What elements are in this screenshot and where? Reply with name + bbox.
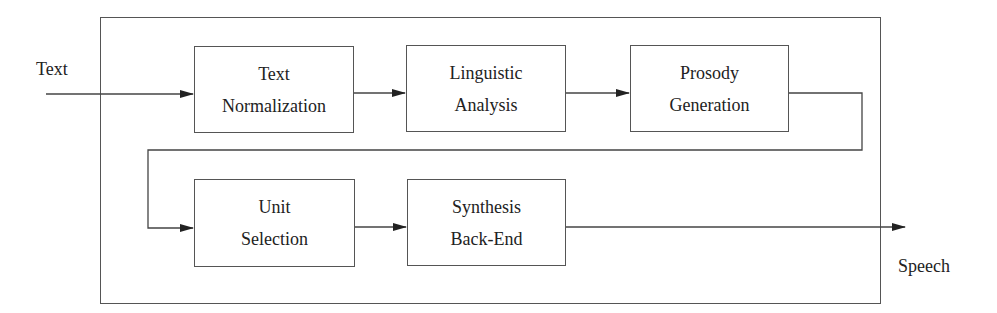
block-unit-selection: Unit Selection [194, 179, 355, 267]
block-line1: Text [258, 58, 290, 90]
output-label: Speech [898, 256, 950, 277]
block-line2: Normalization [222, 90, 326, 122]
block-line2: Back-End [451, 223, 523, 255]
block-line2: Generation [670, 89, 750, 121]
input-label: Text [36, 59, 68, 80]
block-line1: Linguistic [450, 57, 523, 89]
block-line2: Analysis [455, 89, 518, 121]
block-synthesis-back-end: Synthesis Back-End [407, 179, 566, 266]
block-line1: Unit [258, 191, 290, 223]
block-linguistic-analysis: Linguistic Analysis [406, 45, 566, 132]
block-prosody-generation: Prosody Generation [630, 45, 789, 132]
block-line1: Prosody [680, 57, 739, 89]
block-line2: Selection [241, 223, 308, 255]
block-text-normalization: Text Normalization [194, 46, 354, 133]
block-line1: Synthesis [452, 191, 521, 223]
